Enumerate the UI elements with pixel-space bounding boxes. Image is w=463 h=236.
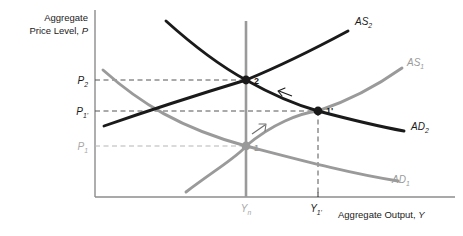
x-axis-title-symbol: Y	[418, 209, 425, 220]
y-axis-title-symbol: P	[82, 25, 89, 36]
y-axis-title-line2-text: Price Level,	[29, 25, 81, 36]
equilibrium-point-1	[242, 142, 251, 151]
equilibrium-point-1prime	[314, 107, 323, 116]
x-axis-title: Aggregate Output, Y	[338, 209, 425, 220]
x-axis-title-text: Aggregate Output,	[338, 209, 418, 220]
as-ad-diagram: Aggregate Price Level, P Aggregate Outpu…	[0, 0, 463, 236]
chart-canvas: Aggregate Price Level, P Aggregate Outpu…	[0, 0, 463, 236]
point-label-1prime: 1'	[326, 106, 333, 116]
y-axis-title-line1: Aggregate	[44, 12, 88, 23]
y-axis-title-line2: Price Level, P	[29, 25, 88, 36]
equilibrium-point-2	[242, 76, 251, 85]
point-label-2: 2	[254, 76, 259, 86]
point-label-1: 1	[254, 143, 259, 153]
